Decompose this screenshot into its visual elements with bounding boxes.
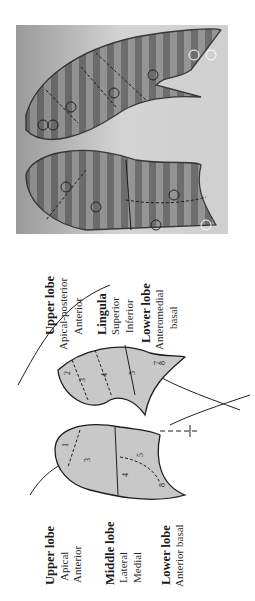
svg-text:8: 8: [158, 483, 167, 487]
label-basal: basal: [168, 306, 179, 329]
svg-text:1: 1: [61, 443, 70, 447]
right-lung-shape: [55, 425, 185, 500]
xray-image: [16, 25, 228, 234]
segment-diagram: 2 3 4 5 7 8 1 3 4 5 8 Upper lobe Apical-…: [0, 245, 255, 601]
svg-text:4: 4: [121, 473, 130, 477]
label-right-anterior: Anterior: [72, 546, 83, 583]
svg-text:4: 4: [100, 373, 109, 377]
label-inferior: Inferior: [124, 299, 135, 333]
left-lung-outline: [26, 151, 216, 230]
label-right-lower-lobe: Lower lobe: [160, 525, 173, 585]
label-right-upper-lobe: Upper lobe: [44, 526, 57, 585]
label-left-anterior: Anterior: [73, 298, 84, 335]
label-left-lower-lobe: Lower lobe: [140, 283, 153, 343]
label-middle-lobe: Middle lobe: [104, 521, 117, 585]
xray-panel: [16, 25, 228, 234]
label-superior: Superior: [110, 297, 121, 335]
label-medial: Medial: [132, 552, 143, 583]
svg-text:2: 2: [63, 371, 72, 375]
svg-text:8: 8: [158, 361, 167, 365]
svg-text:3: 3: [83, 458, 92, 462]
label-apical-posterior: Apical-posterior: [58, 278, 69, 350]
label-left-upper-lobe: Upper lobe: [44, 276, 57, 335]
label-lingula: Lingula: [96, 293, 109, 335]
label-lateral: Lateral: [118, 552, 129, 583]
label-anterior-basal: Anterior basal: [174, 524, 185, 587]
svg-text:5: 5: [128, 371, 137, 375]
label-apical: Apical: [59, 552, 70, 581]
svg-text:3: 3: [78, 378, 87, 382]
label-anteromedial: Anteromedial: [154, 290, 165, 350]
svg-text:5: 5: [136, 453, 145, 457]
